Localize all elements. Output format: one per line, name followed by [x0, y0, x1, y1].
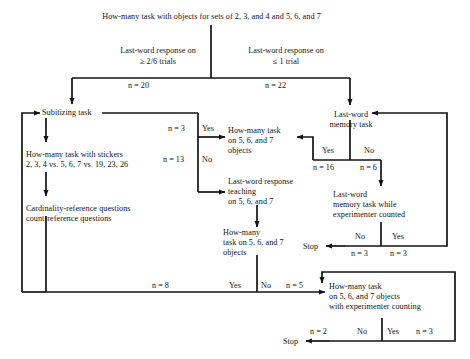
branch-no-subitizing: No — [202, 155, 212, 164]
node-subitizing-task: Subitizing task — [42, 108, 92, 118]
edge-label-n22: n = 22 — [265, 81, 286, 90]
edge-label-n3-stop-left: n = 3 — [351, 249, 368, 258]
node-howmany567-mid-line3: objects — [223, 248, 247, 258]
node-stickers-line2: 2, 3, 4 vs. 5, 6, 7 vs. 19, 23, 26 — [26, 160, 128, 170]
stop-node-bottom: Stop — [283, 337, 298, 346]
left-condition-line2: ≥ 2/6 trials — [98, 57, 218, 67]
branch-no-counttask: No — [357, 327, 367, 336]
node-howmany567-top-line3: objects — [228, 146, 252, 156]
node-memory-while-counted-line2: memory task while — [333, 200, 397, 210]
node-howmany567-top-line2: on 5, 6, and 7 — [228, 136, 273, 146]
branch-yes-subitizing: Yes — [202, 124, 214, 133]
root-node-label: How-many task with objects for sets of 2… — [64, 12, 359, 22]
edge-label-n5: n = 5 — [286, 281, 303, 290]
edge-label-n16: n = 16 — [313, 163, 334, 172]
edge-label-n3-bottom-yes: n = 3 — [416, 327, 433, 336]
node-cardinality-line1: Cardinality-reference questions — [26, 204, 131, 214]
left-condition-line1: Last-word response on — [98, 46, 218, 56]
right-condition-line2: ≤ 1 trial — [226, 57, 346, 67]
node-cardinality-line2: count-reference questions — [26, 214, 112, 224]
node-howmany567-mid-line1: How-many — [223, 228, 260, 238]
edge-label-n2: n = 2 — [310, 327, 327, 336]
branch-no-midtask: No — [261, 281, 271, 290]
branch-no-memory: No — [364, 146, 374, 155]
node-lastword-teaching-line3: on 5, 6, and 7 — [228, 197, 273, 207]
branch-yes-midtask: Yes — [229, 281, 241, 290]
branch-yes-memory: Yes — [322, 146, 334, 155]
flowchart-figure: How-many task with objects for sets of 2… — [0, 0, 470, 359]
node-memory-while-counted-line3: experimenter counted — [333, 210, 405, 220]
node-lastword-teaching-line2: teaching — [228, 187, 256, 197]
node-lastword-teaching-line1: Last-word response — [228, 177, 293, 187]
node-lastword-memory-line2: memory task — [320, 120, 382, 130]
edge-label-n13: n = 13 — [163, 155, 184, 164]
right-condition-line1: Last-word response on — [226, 46, 346, 56]
edge-label-n20: n = 20 — [128, 81, 149, 90]
edge-label-n3-subitizing-yes: n = 3 — [168, 124, 185, 133]
node-lastword-memory-line1: Last-word — [320, 110, 382, 120]
branch-no-memcount: No — [355, 232, 365, 241]
edge-label-n3-yes-right: n = 3 — [390, 249, 407, 258]
node-memory-while-counted-line1: Last-word — [333, 190, 367, 200]
edge-label-n8: n = 8 — [152, 281, 169, 290]
stop-node-right: Stop — [303, 242, 318, 251]
node-howmany-with-counting-line2: on 5, 6, and 7 objects — [329, 292, 400, 302]
branch-yes-memcount: Yes — [392, 232, 404, 241]
node-stickers-line1: How-many task with stickers — [26, 150, 123, 160]
node-howmany567-top-line1: How-many task — [228, 126, 281, 136]
node-howmany-with-counting-line1: How-many task — [329, 282, 382, 292]
node-howmany-with-counting-line3: with experimenter counting — [329, 302, 421, 312]
branch-yes-counttask: Yes — [387, 327, 399, 336]
node-howmany567-mid-line2: task on 5, 6, and 7 — [223, 238, 284, 248]
edge-label-n6: n = 6 — [360, 163, 377, 172]
